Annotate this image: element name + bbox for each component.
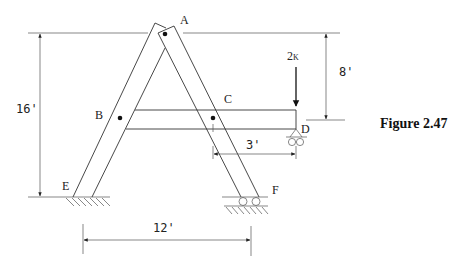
load-label: 2K [287, 49, 299, 63]
dimension-16ft-label: 16' [16, 102, 38, 116]
pin-b [118, 116, 123, 121]
label-e: E [62, 179, 69, 193]
member-right-leg [158, 26, 259, 197]
label-d: D [301, 122, 310, 136]
pin-a [163, 32, 168, 37]
label-b: B [95, 108, 103, 122]
roller-support-f-icon [222, 197, 268, 214]
label-c: C [224, 92, 232, 106]
label-f: F [272, 183, 279, 197]
fixed-support-e-icon [66, 198, 110, 206]
frame-drawing: A B C D E F 2K 16' 8' 3' 12' Figure 2.47 [0, 0, 456, 272]
member-crossbar-bcd [126, 110, 296, 129]
label-a: A [180, 13, 189, 27]
load-unit: K [293, 53, 299, 62]
dimension-12ft-label: 12' [153, 221, 175, 235]
dimension-3ft-label: 3' [246, 138, 260, 152]
dimension-8ft-label: 8' [339, 65, 353, 79]
pin-c [211, 116, 216, 121]
structural-diagram: A B C D E F 2K 16' 8' 3' 12' Figure 2.47 [0, 0, 456, 272]
figure-caption: Figure 2.47 [380, 116, 447, 131]
